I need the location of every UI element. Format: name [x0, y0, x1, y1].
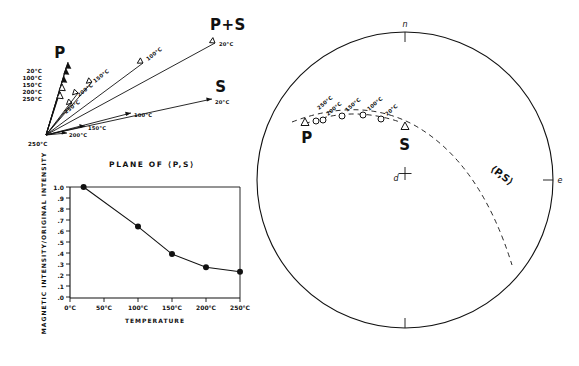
chart-ytick-4: .4 [58, 250, 64, 257]
figure-canvas: P 20°C 100°C 150°C 200°C 250°C 250°C 200… [0, 0, 579, 366]
stereonet-label-P: P [301, 129, 313, 147]
stereonet-label-S: S [399, 136, 410, 154]
chart-y-ticks: 1.0 .9 .8 .7 .6 .5 .4 .3 .2 .1 .0 [53, 184, 70, 301]
chart-ylabel: MAGNETIC INTENSITY/ORIGINAL INTENSITY [40, 152, 47, 334]
stereonet-center: d [393, 167, 411, 183]
stereonet-point-label-20c: 20°C [384, 103, 399, 117]
stereonet-point-250c [313, 118, 319, 124]
chart-data-points [81, 184, 243, 275]
chart-xtick-50: 50°C [96, 304, 112, 311]
chart-ytick-6: .6 [58, 228, 64, 235]
chart-ytick-3: .3 [58, 261, 64, 268]
chart-point-150c [169, 251, 175, 257]
fan-PS-temp-150: 150°C [92, 68, 110, 84]
chart-ytick-5: .5 [58, 239, 64, 246]
chart-ytick-2: .2 [58, 272, 64, 279]
fan-P-temp-150: 150°C [22, 82, 42, 88]
stereonet-panel: n e d P S 250°C 200°C 150°C 100°C [257, 20, 563, 328]
stereonet-path-points: 250°C 200°C 150°C 100°C 20°C [313, 94, 399, 124]
chart-point-20c [81, 184, 87, 190]
fan-PS-temp-100: 100°C [145, 46, 163, 62]
chart-xtick-100: 100°C [128, 304, 149, 311]
fan-P-temp-200: 200°C [22, 89, 42, 95]
vector-label-P: P [54, 44, 66, 62]
vector-panel-caption: PLANE OF ⟨P,S⟩ [109, 160, 195, 169]
vector-label-S: S [215, 78, 226, 96]
fan-PS-temp-20: 20°C [219, 41, 233, 47]
chart-point-200c [203, 264, 209, 270]
intensity-decay-chart: 1.0 .9 .8 .7 .6 .5 .4 .3 .2 .1 .0 0°C [40, 152, 251, 334]
chart-ytick-7: .7 [58, 217, 64, 224]
chart-point-250c [237, 269, 243, 275]
chart-ytick-8: .8 [58, 206, 64, 213]
fan-S-temp-150: 150°C [88, 125, 106, 131]
chart-data-line [84, 187, 240, 272]
stereonet-great-circle [292, 110, 512, 265]
chart-point-100c [135, 224, 141, 230]
stereonet-point-20c [378, 116, 384, 122]
stereonet-marker-S [401, 122, 409, 130]
stereonet-east-label: e [558, 176, 563, 185]
vector-label-PS: P+S [210, 16, 246, 34]
vector-fan-panel: P 20°C 100°C 150°C 200°C 250°C 250°C 200… [22, 16, 246, 169]
chart-ytick-10: 1.0 [53, 184, 64, 191]
figure-root: P 20°C 100°C 150°C 200°C 250°C 250°C 200… [0, 0, 579, 366]
fan-P-temp-250: 250°C [22, 96, 42, 102]
stereonet-north-label: n [402, 20, 407, 29]
stereonet-great-circle-label: ⟨P,S⟩ [489, 163, 516, 187]
stereonet-point-150c [339, 113, 345, 119]
stereonet-center-label: d [393, 174, 399, 183]
fan-P-temp-20: 20°C [27, 68, 43, 74]
stereonet-point-200c [320, 117, 326, 123]
chart-x-ticks: 0°C 50°C 100°C 150°C 200°C 250°C [64, 298, 250, 311]
fan-P-temp-100: 100°C [22, 75, 42, 81]
stereonet-point-label-150c: 150°C [344, 96, 362, 112]
chart-xtick-150: 150°C [162, 304, 183, 311]
chart-ytick-0: .0 [58, 294, 64, 301]
chart-ytick-1: .1 [58, 283, 64, 290]
chart-xtick-200: 200°C [196, 304, 217, 311]
stereonet-point-label-100c: 100°C [366, 95, 384, 111]
chart-xtick-0: 0°C [64, 304, 76, 311]
chart-xtick-250: 250°C [230, 304, 251, 311]
chart-xlabel: TEMPERATURE [125, 317, 185, 324]
fan-S-temp-20: 20°C [215, 99, 229, 105]
chart-ytick-9: .9 [58, 195, 64, 202]
stereonet-marker-P [301, 118, 309, 126]
fan-S-temp-200: 200°C [69, 132, 87, 138]
vector-origin-label: 250°C [28, 141, 48, 147]
stereonet-point-100c [360, 112, 366, 118]
